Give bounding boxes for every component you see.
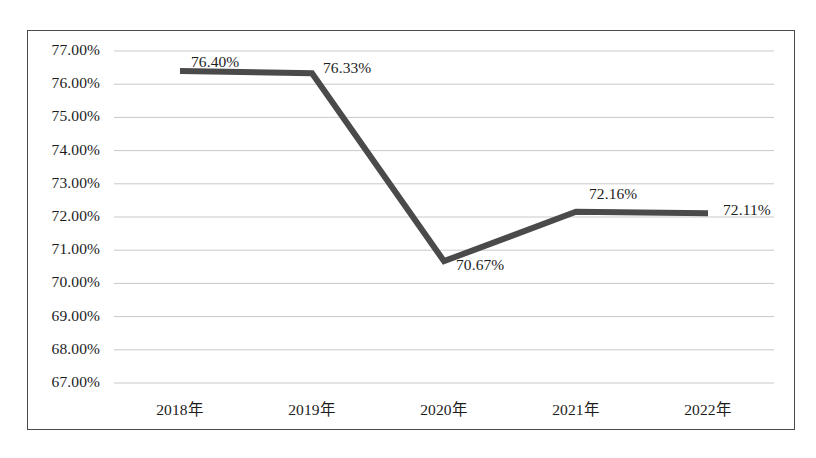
x-axis-category-label: 2021年 xyxy=(510,397,642,419)
chart-figure: 77.00%76.00%75.00%74.00%73.00%72.00%71.0… xyxy=(27,30,795,430)
y-axis-tick-label: 75.00% xyxy=(52,107,100,125)
x-axis-category-label: 2022年 xyxy=(642,397,774,419)
y-axis-tick-label: 73.00% xyxy=(52,174,100,192)
data-point-label: 76.33% xyxy=(323,59,371,77)
y-axis-tick-label: 68.00% xyxy=(52,340,100,358)
data-point-label: 70.67% xyxy=(456,256,504,274)
x-axis-category-label: 2020年 xyxy=(378,397,510,419)
y-axis-tick-label: 72.00% xyxy=(52,207,100,225)
gridlines-group xyxy=(114,51,774,383)
y-axis-tick-label: 76.00% xyxy=(52,74,100,92)
data-point-label: 76.40% xyxy=(191,53,239,71)
data-point-label: 72.11% xyxy=(723,201,771,219)
y-axis-tick-label: 77.00% xyxy=(52,41,100,59)
y-axis-tick-label: 70.00% xyxy=(52,273,100,291)
line-series-group xyxy=(180,71,708,261)
x-axis-category-label: 2019年 xyxy=(246,397,378,419)
y-axis-tick-label: 69.00% xyxy=(52,307,100,325)
y-axis-tick-label: 67.00% xyxy=(52,373,100,391)
y-axis-tick-label: 74.00% xyxy=(52,141,100,159)
data-line-series xyxy=(180,71,708,261)
y-axis-tick-label: 71.00% xyxy=(52,240,100,258)
x-axis-category-label: 2018年 xyxy=(114,397,246,419)
data-point-label: 72.16% xyxy=(589,185,637,203)
chart-plot-canvas xyxy=(28,31,796,431)
